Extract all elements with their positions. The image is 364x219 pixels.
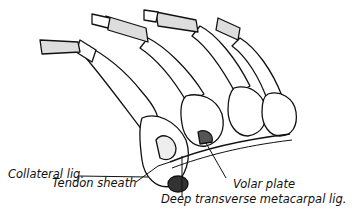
volar-plate-leader-line <box>206 143 226 178</box>
anatomy-figure: Collateral lig. Tendon sheath Volar plat… <box>0 0 364 219</box>
label-volar-plate: Volar plate <box>233 179 295 191</box>
label-deep-transverse-metacarpal-ligament: Deep transverse metacarpal lig. <box>161 194 346 206</box>
label-tendon-sheath: Tendon sheath <box>52 178 136 190</box>
